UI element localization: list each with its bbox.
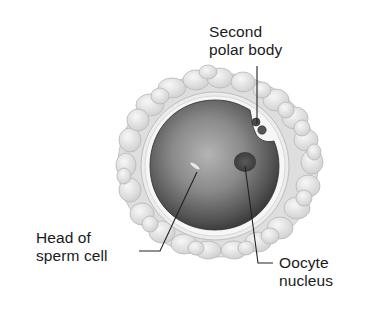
label-second-polar-body-line2: polar body	[209, 41, 282, 59]
label-head-of-sperm-cell-line2: sperm cell	[36, 247, 108, 265]
label-second-polar-body: Second polar body	[209, 23, 282, 59]
label-oocyte-nucleus-line1: Oocyte	[279, 254, 333, 272]
label-second-polar-body-line1: Second	[209, 23, 282, 41]
fertilization-diagram: Second polar body Head of sperm cell Ooc…	[0, 0, 377, 317]
label-oocyte-nucleus-line2: nucleus	[279, 272, 333, 290]
label-head-of-sperm-cell: Head of sperm cell	[36, 229, 108, 265]
label-head-of-sperm-cell-line1: Head of	[36, 229, 108, 247]
label-oocyte-nucleus: Oocyte nucleus	[279, 254, 333, 290]
